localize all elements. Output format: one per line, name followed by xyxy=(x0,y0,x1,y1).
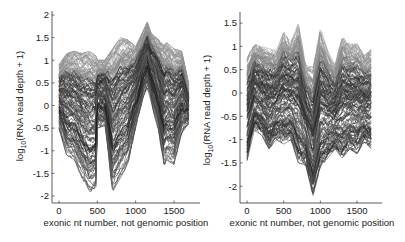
left-plot: -2-1.5-1-0.500.511.52 050010001500 exoni… xyxy=(14,9,208,228)
left-yticks: -2-1.5-1-0.500.511.52 xyxy=(33,9,55,201)
ytick-label: -1 xyxy=(229,134,237,145)
xtick-label: 1000 xyxy=(125,205,146,216)
left-traces xyxy=(59,22,189,191)
ytick-label: 0 xyxy=(44,100,49,111)
right-traces xyxy=(247,24,371,196)
ytick-label: 0.5 xyxy=(224,64,237,75)
xtick-label: 1500 xyxy=(346,205,367,216)
ytick-label: -2 xyxy=(41,190,49,201)
ytick-label: 1.5 xyxy=(36,32,49,43)
xtick-label: 0 xyxy=(244,205,249,216)
ytick-label: -2 xyxy=(229,181,237,192)
ytick-label: -1 xyxy=(41,145,49,156)
left-xlabel: exonic nt number, not genomic position xyxy=(44,217,209,228)
ytick-label: 1.5 xyxy=(224,17,237,28)
right-plot: -2-1.5-1-0.500.511.5 050010001500 exonic… xyxy=(201,12,394,228)
xtick-label: 1500 xyxy=(163,205,184,216)
figure: -2-1.5-1-0.500.511.52 050010001500 exoni… xyxy=(0,0,405,242)
xtick-label: 0 xyxy=(56,205,61,216)
ytick-label: 2 xyxy=(44,9,49,20)
right-xlabel: exonic nt number, not genomic position xyxy=(230,217,395,228)
xtick-label: 1000 xyxy=(310,205,331,216)
right-ylabel: log10(RNA read depth + 1) xyxy=(201,55,214,166)
ytick-label: 0.5 xyxy=(36,77,49,88)
xtick-label: 500 xyxy=(89,205,105,216)
xtick-label: 500 xyxy=(276,205,292,216)
ytick-label: -1.5 xyxy=(221,157,237,168)
ytick-label: 0 xyxy=(232,87,237,98)
ytick-label: -0.5 xyxy=(221,111,237,122)
left-ylabel: log10(RNA read depth + 1) xyxy=(14,51,27,162)
ytick-label: -0.5 xyxy=(33,122,49,133)
ytick-label: -1.5 xyxy=(33,168,49,179)
ytick-label: 1 xyxy=(44,55,49,66)
ytick-label: 1 xyxy=(232,41,237,52)
right-yticks: -2-1.5-1-0.500.511.5 xyxy=(221,17,243,191)
